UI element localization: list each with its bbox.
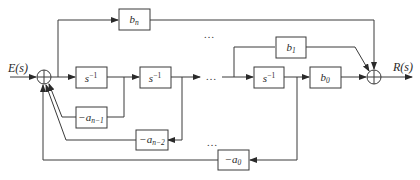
feedback-an1-line-in xyxy=(107,77,124,117)
feedback-an1-line-out xyxy=(49,84,76,117)
summing-junction-output xyxy=(367,70,381,84)
summing-junction-input xyxy=(37,70,51,84)
b1-label: b1 xyxy=(286,42,295,55)
an2-label: −an−2 xyxy=(139,134,165,147)
an1-label: −an−1 xyxy=(78,112,104,125)
feedforward-ellipsis: … xyxy=(204,29,215,40)
feedforward-bn-line-out xyxy=(150,20,374,69)
chain-ellipsis: … xyxy=(206,71,217,82)
feedback-a0-line-in xyxy=(250,77,297,160)
output-label: R(s) xyxy=(393,61,413,73)
block-diagram: E(s) R(s) s−1 s−1 s−1 bn b1 b0 −an−1 −an… xyxy=(0,0,420,180)
feedback-a0-line-out xyxy=(43,85,218,160)
a0-label: −a0 xyxy=(225,154,242,167)
integrator-n-label: s−1 xyxy=(263,72,275,84)
integrator-2-label: s−1 xyxy=(149,72,161,84)
input-label: E(s) xyxy=(8,62,28,74)
bn-label: bn xyxy=(129,14,138,27)
integrator-1-label: s−1 xyxy=(85,72,97,84)
b0-label: b0 xyxy=(320,72,329,85)
feedback-ellipsis: … xyxy=(207,137,218,148)
